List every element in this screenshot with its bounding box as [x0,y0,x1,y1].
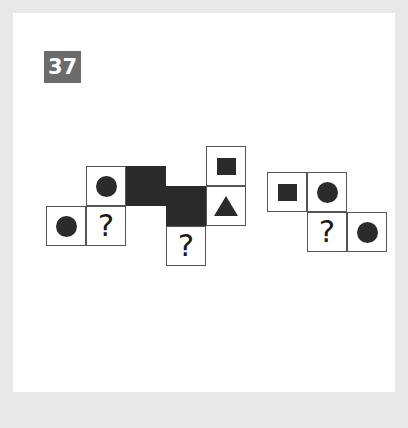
puzzle-cell-square [206,146,246,186]
triangle-glyph [207,187,245,225]
circle-glyph [87,167,125,205]
puzzle-cell-question[interactable]: ? [86,206,126,246]
circle-icon [317,182,338,203]
question-glyph: ? [87,207,125,245]
question-mark-label: ? [178,230,194,261]
puzzle-cell-circle [307,172,347,212]
question-glyph: ? [308,213,346,251]
puzzle-number-badge: 37 [44,51,81,83]
circle-icon [96,176,117,197]
square-glyph [268,173,306,211]
question-glyph: ? [167,227,205,265]
square-icon [217,158,236,175]
question-mark-label: ? [319,216,335,247]
circle-glyph [308,173,346,211]
square-glyph [207,147,245,185]
puzzle-cell-circle [347,212,387,252]
question-mark-label: ? [98,210,114,241]
puzzle-page: 37 ??? [0,0,408,428]
circle-glyph [348,213,386,251]
puzzle-cell-question[interactable]: ? [166,226,206,266]
puzzle-cell-square [267,172,307,212]
circle-icon [56,216,77,237]
puzzle-cell-solid [126,166,166,206]
triangle-icon [214,196,238,216]
puzzle-cell-circle [46,206,86,246]
circle-icon [357,222,378,243]
square-icon [278,184,297,201]
puzzle-cell-triangle [206,186,246,226]
circle-glyph [47,207,85,245]
puzzle-cell-circle [86,166,126,206]
puzzle-cell-solid [166,186,206,226]
puzzle-cell-question[interactable]: ? [307,212,347,252]
puzzle-card: 37 ??? [13,13,395,392]
